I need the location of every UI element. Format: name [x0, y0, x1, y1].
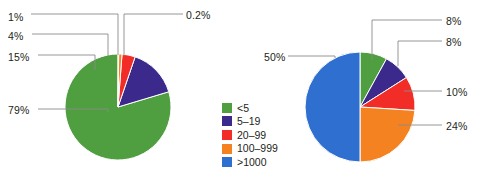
pie-slice-100999[interactable]: [360, 107, 415, 162]
pie-slice-1000[interactable]: [305, 52, 360, 162]
right-pie-label-8-green: 8%: [446, 15, 461, 27]
legend-item-5-19[interactable]: 5–19: [222, 115, 278, 129]
right-pie-label-10: 10%: [446, 86, 467, 98]
legend-item-gt1000[interactable]: >1000: [222, 155, 278, 169]
legend-swatch-gt1000: [222, 157, 232, 167]
left-pie-label-1: 1%: [8, 11, 23, 23]
legend-label-5-19: 5–19: [237, 116, 260, 127]
right-pie-label-24: 24%: [446, 120, 467, 132]
leader-left-4: [32, 34, 108, 56]
pie-slice-1000[interactable]: [118, 54, 119, 107]
left-pie-label-79: 79%: [8, 104, 29, 116]
legend-item-lt5[interactable]: <5: [222, 101, 278, 115]
legend-label-20-99: 20–99: [237, 130, 266, 141]
pie-chart-figure: 0.2% 1% 4% 15% 79% 8% 8% 10% 24% 50% <5 …: [0, 0, 477, 192]
left-pie-label-0.2: 0.2%: [186, 9, 210, 21]
leader-left-02: [124, 14, 183, 56]
leader-right-8-purple: [398, 41, 442, 66]
legend-swatch-5-19: [222, 116, 232, 126]
leader-left-1: [31, 14, 118, 55]
legend-label-100-999: 100–999: [237, 143, 278, 154]
right-pie-label-50: 50%: [264, 51, 285, 63]
leader-right-8-green: [372, 20, 442, 60]
legend-swatch-lt5: [222, 103, 232, 113]
left-pie-chart: [65, 54, 171, 160]
legend-item-20-99[interactable]: 20–99: [222, 128, 278, 142]
right-pie-chart: [305, 52, 415, 162]
right-pie-label-8-purple: 8%: [446, 36, 461, 48]
legend: <5 5–19 20–99 100–999 >1000: [222, 101, 278, 169]
legend-label-lt5: <5: [237, 103, 249, 114]
leader-right-50: [288, 56, 335, 58]
left-pie-label-15: 15%: [8, 51, 29, 63]
legend-item-100-999[interactable]: 100–999: [222, 142, 278, 156]
legend-swatch-20-99: [222, 130, 232, 140]
legend-swatch-100-999: [222, 144, 232, 154]
left-pie-label-4: 4%: [8, 30, 23, 42]
legend-label-gt1000: >1000: [237, 157, 267, 168]
